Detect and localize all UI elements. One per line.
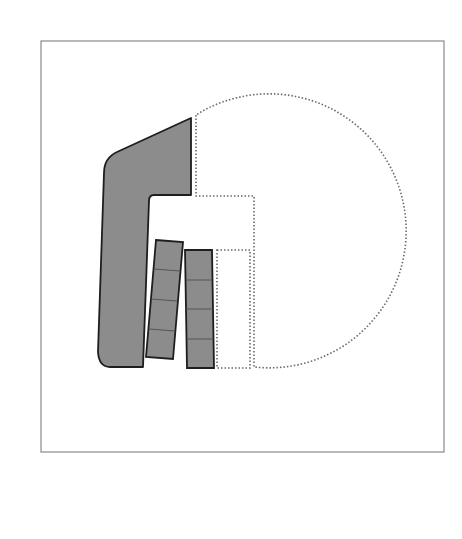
dotted-inner-rectangle bbox=[217, 250, 250, 368]
bar-block-upright bbox=[185, 250, 214, 368]
dotted-circular-zone bbox=[196, 94, 406, 368]
site-plan-diagram bbox=[0, 0, 462, 539]
bar-block-tilted bbox=[146, 240, 183, 359]
